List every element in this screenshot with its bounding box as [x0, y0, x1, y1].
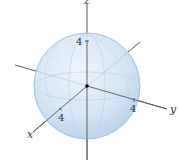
- origin-point: [85, 84, 89, 88]
- z-axis-label: z: [83, 0, 90, 7]
- z-tick-label: 4: [76, 36, 82, 47]
- y-tick-label: 4: [130, 103, 136, 114]
- x-axis-label: x: [27, 128, 34, 141]
- sphere-diagram: z 4 y 4 x 4: [0, 0, 180, 165]
- y-axis-label: y: [169, 103, 177, 116]
- x-tick-label: 4: [58, 112, 64, 123]
